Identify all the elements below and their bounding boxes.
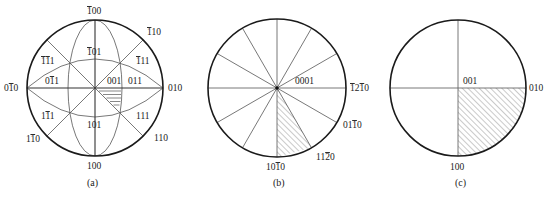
label-0bar10: 010 xyxy=(4,83,19,93)
panel-a-cubic-projection: 100 110 101 111 111 011 001 011 010 010 … xyxy=(4,6,183,189)
stereographic-projections-figure: 100 110 101 111 111 011 001 011 010 010 … xyxy=(0,0,552,197)
label-001: 001 xyxy=(463,76,478,86)
center-pole xyxy=(275,86,279,90)
caption-c: (c) xyxy=(455,177,466,189)
panel-b-hexagonal-projection: 0001 1210 0110 1120 1010 (b) xyxy=(208,19,369,189)
label-bar110: 110 xyxy=(147,27,161,37)
label-0001: 0001 xyxy=(295,76,314,86)
label-bar1bar11: 111 xyxy=(41,56,55,66)
label-101: 101 xyxy=(87,120,102,130)
label-100: 100 xyxy=(450,162,465,172)
label-11bar20: 1120 xyxy=(316,152,335,162)
label-110: 110 xyxy=(154,133,168,143)
label-10bar10: 1010 xyxy=(266,162,285,172)
label-bar12bar10: 1210 xyxy=(350,83,369,93)
caption-b: (b) xyxy=(273,177,285,189)
label-011: 011 xyxy=(128,76,142,86)
label-bar100: 100 xyxy=(87,6,102,16)
label-bar111: 111 xyxy=(136,56,150,66)
panel-c-orthorhombic-projection: 001 010 100 (c) xyxy=(390,20,544,189)
hatched-quadrant xyxy=(458,88,526,156)
label-100: 100 xyxy=(87,161,102,171)
label-1bar11: 111 xyxy=(41,111,55,121)
label-0bar11: 011 xyxy=(45,76,59,86)
label-1bar10: 110 xyxy=(26,134,40,144)
label-111: 111 xyxy=(136,111,150,121)
label-bar101: 101 xyxy=(87,47,102,57)
label-010: 010 xyxy=(168,83,183,93)
caption-a: (a) xyxy=(87,177,98,189)
label-010: 010 xyxy=(529,83,544,93)
label-001: 001 xyxy=(107,76,122,86)
label-01bar10: 0110 xyxy=(343,120,362,130)
